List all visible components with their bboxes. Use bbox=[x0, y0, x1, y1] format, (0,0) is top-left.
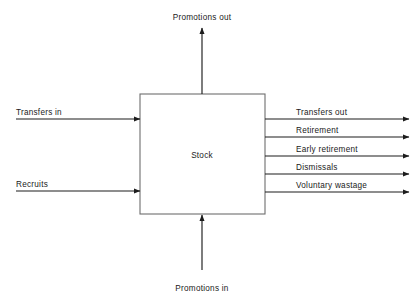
flow-label-recruits: Recruits bbox=[16, 180, 48, 189]
flow-label-early-retirement: Early retirement bbox=[296, 145, 358, 154]
stock-flow-diagram: Stock Promotions out Promotions in Trans… bbox=[0, 0, 417, 307]
diagram-canvas: Stock Promotions out Promotions in Trans… bbox=[0, 0, 417, 307]
flow-label-promotions-in: Promotions in bbox=[175, 284, 229, 293]
flow-label-retirement: Retirement bbox=[296, 126, 339, 135]
flow-label-dismissals: Dismissals bbox=[296, 163, 338, 172]
flow-label-transfers-out: Transfers out bbox=[296, 108, 348, 117]
flow-label-transfers-in: Transfers in bbox=[16, 108, 62, 117]
flow-label-voluntary-wastage: Voluntary wastage bbox=[296, 181, 367, 190]
stock-box-label: Stock bbox=[191, 151, 213, 160]
flow-label-promotions-out: Promotions out bbox=[173, 13, 232, 22]
